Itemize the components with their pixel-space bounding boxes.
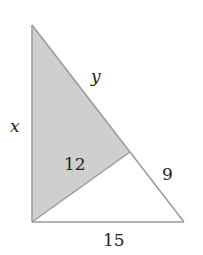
label-y: y [90,66,101,86]
label-12: 12 [64,154,86,174]
triangle-diagram: x y 12 9 15 [0,0,203,255]
label-x: x [10,116,20,136]
label-9: 9 [162,164,173,184]
label-15: 15 [103,230,125,250]
